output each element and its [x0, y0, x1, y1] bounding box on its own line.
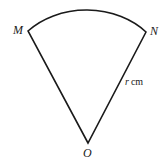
vertex-label-m: M: [13, 24, 23, 36]
vertex-label-o: O: [83, 147, 92, 159]
vertex-label-n: N: [150, 25, 158, 37]
radius-length-label: rcm: [125, 77, 143, 87]
sector-figure: M N O rcm: [0, 0, 168, 166]
radius-unit: cm: [131, 76, 143, 87]
radius-symbol: r: [125, 76, 129, 87]
